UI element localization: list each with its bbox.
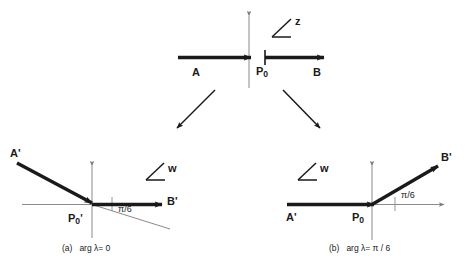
wb-origin-subscript: 0 xyxy=(359,215,364,225)
wa-angle-label: π/6 xyxy=(118,205,132,214)
wa-caption-tag: (a) xyxy=(62,243,72,253)
wb-label-b-prime: B' xyxy=(441,152,452,163)
wa-plane-label: w xyxy=(168,163,177,174)
wa-label-b-prime: B' xyxy=(167,196,178,207)
w-plane-a-group xyxy=(17,163,170,238)
w-plane-b-group xyxy=(287,163,444,240)
wb-label-a-prime: A' xyxy=(286,212,297,223)
wa-caption-text: arg λ= 0 xyxy=(79,243,110,253)
figure-vector-canvas xyxy=(0,0,466,268)
wa-angle-glyph-diagonal xyxy=(146,163,164,180)
z-origin-subscript: 0 xyxy=(263,69,268,79)
wb-caption: (b)arg λ= π / 6 xyxy=(329,244,390,253)
wa-ray-a-incoming xyxy=(17,163,92,203)
wa-origin-prime: ' xyxy=(80,213,82,224)
wa-label-a-prime: A' xyxy=(10,148,21,159)
z-label-b: B xyxy=(313,67,321,78)
wb-caption-text: arg λ= π / 6 xyxy=(346,243,390,253)
wb-angle-label: π/6 xyxy=(401,191,415,200)
connector-right-arrow xyxy=(283,90,320,128)
figure-container: z A B P0 w A' B' P0' π/6 (a)arg λ= 0 w A… xyxy=(0,0,466,268)
z-plane-label: z xyxy=(295,16,301,27)
z-label-a: A xyxy=(192,67,200,78)
wb-angle-glyph-diagonal xyxy=(298,163,316,180)
wa-caption: (a)arg λ= 0 xyxy=(62,244,110,253)
z-label-origin: P0 xyxy=(256,66,268,79)
connector-left-arrow xyxy=(177,90,215,128)
wb-label-origin: P0 xyxy=(352,212,364,225)
z-angle-glyph-diagonal xyxy=(272,19,291,37)
connector-arrows-group xyxy=(177,90,320,128)
wb-plane-label: w xyxy=(320,163,329,174)
wb-caption-tag: (b) xyxy=(329,243,339,253)
wa-label-origin: P0' xyxy=(68,213,83,226)
